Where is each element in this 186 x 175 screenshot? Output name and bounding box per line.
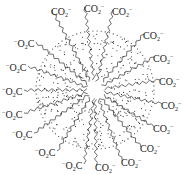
surfactant-tail <box>101 57 154 86</box>
carboxylate-label: CO2− <box>51 4 71 20</box>
surfactant-tail <box>94 100 98 167</box>
surfactant-tail <box>84 7 95 80</box>
carboxylate-label: CO2− <box>159 74 179 90</box>
surfactant-tail <box>98 98 122 161</box>
carboxylate-label: CO2− <box>84 1 104 17</box>
surfactant-tail <box>96 10 114 81</box>
carboxylate-label-reversed: −O2C <box>2 107 22 123</box>
carboxylate-label: CO2− <box>161 98 181 114</box>
carboxylate-label: CO2− <box>143 28 163 44</box>
carboxylate-label: CO2− <box>140 141 160 157</box>
carboxylate-label: CO2− <box>95 160 115 175</box>
carboxylate-label-reversed: −O2C <box>12 127 32 143</box>
carboxylate-label: CO2− <box>121 155 141 171</box>
carboxylate-label: CO2− <box>153 51 173 67</box>
carboxylate-label-reversed: −O2C <box>14 36 34 52</box>
surfactant-tail <box>52 10 90 82</box>
surfactant-tail <box>84 98 96 164</box>
surfactant-tail <box>105 79 160 90</box>
carboxylate-label: CO2− <box>112 4 132 20</box>
carboxylate-label-reversed: −O2C <box>35 145 55 161</box>
carboxylate-label-reversed: −O2C <box>2 84 22 100</box>
carboxylate-label: CO2− <box>153 121 173 137</box>
surfactant-tail <box>28 66 88 87</box>
surfactant-tail <box>57 97 90 151</box>
surfactant-tail <box>24 89 87 92</box>
carboxylate-label-reversed: −O2C <box>62 158 82 174</box>
carboxylate-label-reversed: −O2C <box>6 60 26 76</box>
